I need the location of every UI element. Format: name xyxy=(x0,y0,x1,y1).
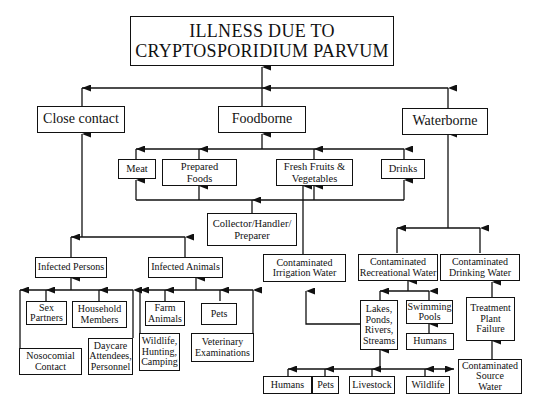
contaminated-drinking-water: Contaminated Drinking Water xyxy=(440,254,520,281)
farm-animals: Farm Animals xyxy=(145,301,185,326)
pets-contact: Pets xyxy=(201,303,237,325)
nosocomial-contact: Nosocomial Contact xyxy=(19,348,82,375)
source-humans: Humans xyxy=(263,376,312,394)
collector-handler-preparer: Collector/Handler/ Preparer xyxy=(207,213,297,246)
wildlife-hunting-camping: Wildlife, Hunting, Camping xyxy=(139,333,180,371)
sex-partners: Sex Partners xyxy=(26,301,67,325)
food-fresh-fruits-vegetables: Fresh Fruits & Vegetables xyxy=(276,159,353,186)
treatment-plant-failure: Treatment Plant Failure xyxy=(466,297,515,341)
household-members: Household Members xyxy=(72,301,127,328)
diagram-title: ILLNESS DUE TO CRYPTOSPORIDIUM PARVUM xyxy=(130,16,394,66)
source-pets: Pets xyxy=(312,376,339,394)
infected-persons: Infected Persons xyxy=(35,257,107,278)
food-meat: Meat xyxy=(118,159,156,179)
contaminated-source-water: Contaminated Source Water xyxy=(458,359,522,394)
contaminated-irrigation-water: Contaminated Irrigation Water xyxy=(263,254,346,282)
source-wildlife: Wildlife xyxy=(406,376,450,394)
contaminated-recreational-water: Contaminated Recreational Water xyxy=(358,254,438,281)
category-close-contact: Close contact xyxy=(37,106,125,133)
category-waterborne: Waterborne xyxy=(402,108,488,135)
lakes-ponds-rivers-streams: Lakes, Ponds, Rivers, Streams xyxy=(360,300,398,350)
food-prepared-foods: Prepared Foods xyxy=(162,159,237,186)
pool-humans: Humans xyxy=(406,333,454,350)
swimming-pools: Swimming Pools xyxy=(406,300,453,324)
daycare-attendees-personnel: Daycare Attendees, Personnel xyxy=(88,338,133,375)
cryptosporidium-transmission-diagram: ILLNESS DUE TO CRYPTOSPORIDIUM PARVUM Cl… xyxy=(0,0,539,409)
source-livestock: Livestock xyxy=(349,376,395,394)
veterinary-examinations: Veterinary Examinations xyxy=(191,333,254,362)
category-foodborne: Foodborne xyxy=(218,106,306,133)
food-drinks: Drinks xyxy=(381,159,425,179)
infected-animals: Infected Animals xyxy=(148,257,223,278)
